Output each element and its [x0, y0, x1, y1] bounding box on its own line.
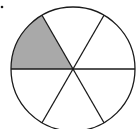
- shaded-sector: [11, 15, 73, 69]
- divider-60deg: [73, 15, 104, 69]
- fraction-circle-diagram: [0, 0, 137, 129]
- divider-300deg: [73, 69, 104, 123]
- corner-dot-marker: [1, 6, 4, 9]
- divider-240deg: [42, 69, 73, 123]
